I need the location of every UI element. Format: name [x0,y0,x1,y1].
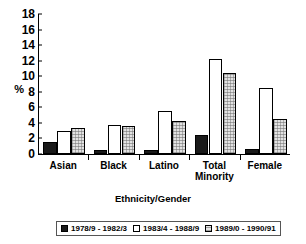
legend-swatch [61,225,68,232]
legend-label: 1983/4 - 1988/9 [143,224,199,233]
legend-item: 1989/0 - 1990/91 [205,224,276,233]
x-tick-label-line: Latino [149,160,179,171]
bar-group [94,14,136,154]
y-axis-line [38,14,39,154]
bar [195,135,209,154]
bar [43,142,57,154]
bar [71,128,85,154]
x-tick-label: Female [240,160,290,171]
legend-item: 1983/4 - 1988/9 [133,224,199,233]
x-axis-title: Ethnicity/Gender [0,193,306,204]
legend-swatch [133,225,140,232]
x-tick-label-line: Asian [50,160,77,171]
bar [259,88,273,154]
plot-area [38,14,290,154]
x-tick-label: TotalMinority [189,160,239,182]
x-tick-label-line: Female [248,160,282,171]
bar-group [195,14,237,154]
y-axis-tick-labels: 181614121086420 [14,14,38,154]
y-tick-label: 16 [22,25,35,35]
bar [172,121,186,154]
bar [223,73,237,154]
y-tick-label: 10 [22,71,35,81]
x-tick-label-line: Minority [189,171,239,182]
y-tick-label: 2 [28,133,35,143]
x-axis-line [38,154,290,155]
x-tick-label: Black [88,160,138,171]
x-tick-label: Latino [139,160,189,171]
bar-chart: % 181614121086420 Ethnicity/Gender 1978/… [0,0,306,244]
legend-swatch [205,225,212,232]
bar-group [43,14,85,154]
chart-legend: 1978/9 - 1982/31983/4 - 1988/91989/0 - 1… [56,221,281,236]
y-tick-label: 6 [28,102,35,112]
legend-label: 1989/0 - 1990/91 [215,224,276,233]
bar [245,149,259,154]
bar [122,126,136,154]
bar [273,119,287,154]
bar [108,125,122,154]
bar [209,59,223,154]
bar [57,131,71,154]
x-tick-label: Asian [38,160,88,171]
bar [144,150,158,154]
y-tick-label: 8 [28,87,35,97]
y-tick-label: 12 [22,56,35,66]
bar-group [144,14,186,154]
bar-group [245,14,287,154]
y-tick-label: 18 [22,9,35,19]
legend-label: 1978/9 - 1982/3 [71,224,127,233]
y-tick-label: 14 [22,40,35,50]
legend-item: 1978/9 - 1982/3 [61,224,127,233]
y-tick-label: 0 [28,149,35,159]
bar [94,150,108,154]
x-tick-label-line: Black [100,160,127,171]
y-tick-label: 4 [28,118,35,128]
bar [158,111,172,154]
x-tick-label-line: Total [203,160,226,171]
